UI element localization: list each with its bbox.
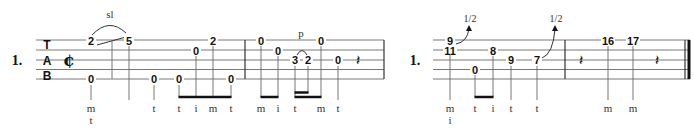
- fingering: t: [509, 102, 512, 114]
- fingering: t: [177, 102, 180, 114]
- fingering: t: [473, 102, 476, 114]
- quarter-rest: 𝄽: [579, 52, 583, 68]
- fret-number: 7: [534, 54, 540, 66]
- time-signature-cut: ¢: [63, 50, 75, 70]
- fingering: i: [276, 102, 279, 114]
- fret-number: 0: [258, 35, 264, 47]
- fingering: t: [89, 114, 92, 126]
- fret-number: 17: [627, 35, 639, 47]
- fingering: i: [194, 102, 197, 114]
- fret-number: 2: [210, 35, 216, 47]
- bend-label: 1/2: [464, 13, 477, 24]
- fingering: m: [87, 102, 96, 114]
- fingering: m: [604, 102, 613, 114]
- fingering: i: [491, 102, 494, 114]
- fret-number: 8: [490, 45, 496, 57]
- fingering: t: [535, 102, 538, 114]
- fret-number: 0: [151, 73, 157, 85]
- right-hand-fingerings: m i t i t t m m: [446, 102, 638, 126]
- fret-number: 0: [335, 54, 341, 66]
- fret-number: 2: [88, 35, 94, 47]
- fret-number: 2: [305, 54, 311, 66]
- fret-number: 0: [228, 73, 234, 85]
- tab-clef-a: A: [43, 54, 52, 68]
- fingering: t: [293, 102, 296, 114]
- quarter-rest: 𝄽: [655, 52, 659, 68]
- bend-label: 1/2: [550, 13, 563, 24]
- fret-number: 3: [292, 54, 298, 66]
- fingering: m: [209, 102, 218, 114]
- fret-number: 0: [275, 45, 281, 57]
- tab-clef-t: T: [43, 38, 51, 52]
- fret-number: 5: [126, 35, 132, 47]
- slide-line: [97, 37, 126, 45]
- fret-number: 11: [444, 45, 456, 57]
- fret-number: 0: [472, 64, 478, 76]
- fingering: t: [152, 102, 155, 114]
- fingering: t: [229, 102, 232, 114]
- pull-off-label: p: [298, 27, 304, 39]
- bend-arrow: [542, 29, 555, 58]
- bend-arrowhead: [466, 25, 472, 31]
- fret-number: 0: [88, 73, 94, 85]
- fret-number: 16: [602, 35, 614, 47]
- final-bar-thick: [688, 40, 691, 79]
- tab-clef-b: B: [43, 69, 52, 83]
- bend-arrowhead: [552, 25, 558, 31]
- right-hand-fingerings: m t t t i m t m i t m t: [87, 102, 340, 126]
- tab-system-left: 1. T A B ¢ sl: [12, 8, 384, 126]
- tab-system-right: 1. 1/2 1/2 𝄽 𝄽 9: [410, 13, 691, 126]
- fingering: m: [629, 102, 638, 114]
- slide-arc: [92, 25, 126, 35]
- measure-number: 1.: [410, 53, 421, 68]
- fret-number: 0: [318, 35, 324, 47]
- bend-arrow: [456, 29, 469, 44]
- slide-label: sl: [106, 8, 113, 20]
- fret-number: 0: [176, 73, 182, 85]
- fingering: m: [317, 102, 326, 114]
- fingering: t: [336, 102, 339, 114]
- measure-number: 1.: [12, 53, 23, 68]
- fingering: i: [448, 114, 451, 126]
- fret-number: 9: [508, 54, 514, 66]
- fingering: m: [257, 102, 266, 114]
- tablature: 1. T A B ¢ sl: [0, 0, 694, 132]
- quarter-rest: 𝄽: [356, 52, 360, 68]
- fingering: m: [446, 102, 455, 114]
- fret-number: 0: [193, 45, 199, 57]
